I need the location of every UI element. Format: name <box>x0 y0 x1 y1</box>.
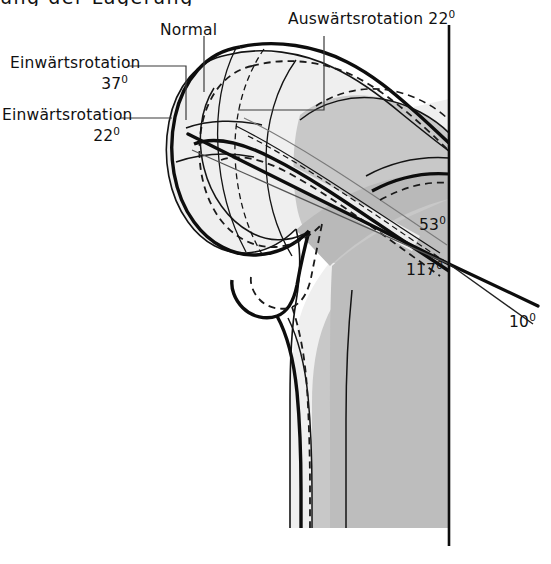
label-einwaertsrotation-37-text: Einwärtsrotation <box>10 55 128 73</box>
label-einwaertsrotation-22: Einwärtsrotation 220 <box>2 107 120 146</box>
degree-symbol: 0 <box>121 73 128 85</box>
label-einwaertsrotation-37: Einwärtsrotation 370 <box>10 55 128 94</box>
label-angle-53-value: 53 <box>419 216 439 234</box>
label-auswaertsrotation-value: 22 <box>428 10 448 28</box>
degree-symbol: 0 <box>529 311 536 323</box>
degree-symbol: 0 <box>448 8 455 20</box>
femur-rotation-diagram: ung der Lagerung <box>0 0 551 564</box>
label-angle-117-value: 117 <box>406 261 436 279</box>
degree-symbol: 0 <box>439 214 446 226</box>
degree-symbol: 0 <box>113 125 120 137</box>
label-angle-10: 100 <box>509 311 536 332</box>
angle-ray-bold-lower <box>449 264 538 306</box>
label-auswaertsrotation: Auswärtsrotation 220 <box>288 8 455 29</box>
label-einwaertsrotation-37-value: 37 <box>101 75 121 93</box>
label-normal-text: Normal <box>160 21 217 39</box>
label-angle-117: 1170 <box>406 259 443 280</box>
label-angle-10-value: 10 <box>509 313 529 331</box>
label-angle-53: 530 <box>419 214 446 235</box>
label-einwaertsrotation-22-value: 22 <box>93 127 113 145</box>
label-normal: Normal <box>160 22 217 40</box>
label-einwaertsrotation-22-text: Einwärtsrotation <box>2 107 120 125</box>
label-einwaertsrotation-22-value-row: 220 <box>2 125 120 146</box>
label-einwaertsrotation-37-value-row: 370 <box>10 73 128 94</box>
degree-symbol: 0 <box>436 259 443 271</box>
label-auswaertsrotation-text: Auswärtsrotation <box>288 10 423 28</box>
